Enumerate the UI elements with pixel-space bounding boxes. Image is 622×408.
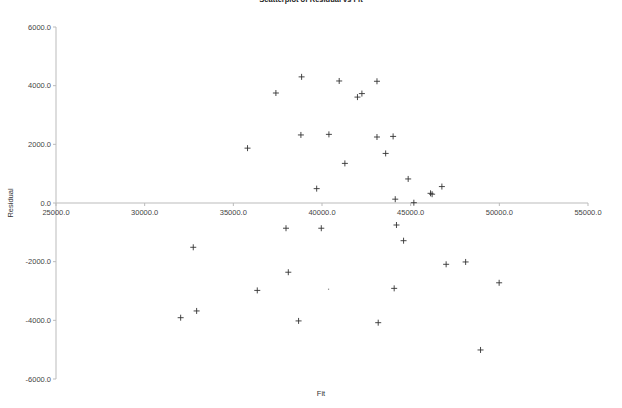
- data-point-marker: [342, 160, 348, 166]
- x-tick-label: 50000.0: [486, 208, 513, 217]
- data-point-marker: [318, 225, 324, 231]
- data-point-marker: [463, 259, 469, 265]
- y-axis: 6000.04000.02000.00.0-2000.0-4000.0-6000…: [26, 23, 56, 384]
- x-tick-label: 55000.0: [574, 208, 601, 217]
- data-point-marker: [328, 289, 329, 290]
- chart-title: Scatterplot of Residual vs Fit: [259, 0, 363, 4]
- data-point-marker: [496, 280, 502, 286]
- x-axis: 25000.030000.035000.040000.045000.050000…: [42, 203, 601, 217]
- data-point-marker: [178, 315, 184, 321]
- data-point-marker: [326, 131, 332, 137]
- data-point-marker: [298, 132, 304, 138]
- data-point-marker: [354, 94, 360, 100]
- y-axis-title: Residual: [6, 188, 15, 218]
- data-point-marker: [401, 238, 407, 244]
- x-tick-label: 40000.0: [308, 208, 335, 217]
- data-point-marker: [190, 244, 196, 250]
- scatter-chart: Scatterplot of Residual vs Fit 6000.0400…: [0, 0, 622, 408]
- data-point-marker: [285, 269, 291, 275]
- data-point-marker: [359, 91, 365, 97]
- y-tick-label: 0.0: [41, 199, 51, 208]
- data-point-marker: [314, 186, 320, 192]
- data-point-marker: [383, 150, 389, 156]
- data-point-marker: [273, 90, 279, 96]
- data-point-marker: [254, 287, 260, 293]
- y-tick-label: 4000.0: [28, 81, 51, 90]
- data-point-marker: [299, 74, 305, 80]
- data-point-marker: [428, 190, 434, 196]
- data-point-marker: [439, 184, 445, 190]
- data-point-marker: [411, 200, 417, 206]
- data-point-marker: [374, 78, 380, 84]
- data-point-marker: [393, 222, 399, 228]
- data-point-marker: [283, 225, 289, 231]
- x-tick-label: 35000.0: [220, 208, 247, 217]
- data-point-marker: [336, 78, 342, 84]
- data-point-marker: [390, 133, 396, 139]
- data-point-marker: [405, 176, 411, 182]
- y-tick-label: -6000.0: [26, 375, 51, 384]
- data-point-marker: [443, 261, 449, 267]
- data-point-marker: [296, 318, 302, 324]
- x-tick-label: 25000.0: [42, 208, 69, 217]
- data-point-marker: [374, 134, 380, 140]
- y-tick-label: 2000.0: [28, 140, 51, 149]
- data-point-marker: [478, 347, 484, 353]
- data-point-marker: [375, 320, 381, 326]
- data-point-marker: [392, 196, 398, 202]
- data-point-marker: [194, 308, 200, 314]
- data-point-marker: [245, 145, 251, 151]
- y-tick-label: -4000.0: [26, 316, 51, 325]
- y-tick-label: 6000.0: [28, 23, 51, 32]
- data-point-marker: [391, 285, 397, 291]
- x-axis-title: Fit: [317, 389, 326, 398]
- x-tick-label: 30000.0: [131, 208, 158, 217]
- y-tick-label: -2000.0: [26, 257, 51, 266]
- x-tick-label: 45000.0: [397, 208, 424, 217]
- data-point-marker: [429, 191, 435, 197]
